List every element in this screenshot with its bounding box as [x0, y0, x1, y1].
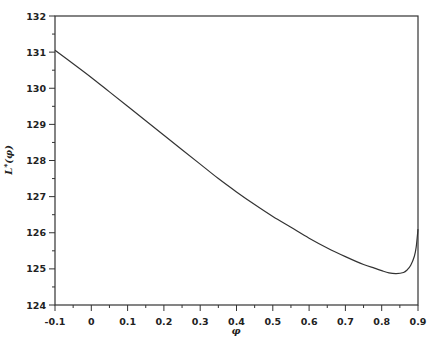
y-tick-label: 127 — [26, 191, 46, 202]
x-tick-label: 0.9 — [410, 316, 427, 327]
x-axis-label: φ — [231, 325, 240, 336]
y-tick-label: 128 — [26, 155, 46, 166]
y-tick-label: 132 — [26, 11, 46, 22]
x-tick-label: 0.7 — [337, 316, 354, 327]
y-axis-label: L*(φ) — [1, 145, 14, 176]
x-tick-label: 0.5 — [264, 316, 281, 327]
y-tick-label: 129 — [26, 119, 46, 130]
x-axis-ticks: -0.100.10.20.30.40.50.60.70.80.9 — [45, 305, 427, 327]
x-tick-label: 0.8 — [373, 316, 390, 327]
data-line — [55, 50, 418, 273]
y-axis-ticks: 124125126127128129130131132 — [26, 11, 55, 311]
svg-text:L*(φ): L*(φ) — [1, 145, 14, 176]
plot-frame — [55, 16, 418, 305]
y-tick-label: 131 — [26, 47, 46, 58]
y-tick-label: 125 — [26, 263, 46, 274]
y-tick-label: 124 — [26, 300, 46, 311]
y-tick-label: 126 — [26, 227, 46, 238]
line-chart: 124125126127128129130131132 -0.100.10.20… — [0, 0, 436, 350]
x-tick-label: 0.2 — [155, 316, 172, 327]
x-tick-label: -0.1 — [45, 316, 66, 327]
x-tick-label: 0.1 — [119, 316, 136, 327]
x-tick-label: 0.3 — [192, 316, 209, 327]
x-tick-label: 0 — [88, 316, 95, 327]
x-tick-label: 0.6 — [301, 316, 318, 327]
y-tick-label: 130 — [26, 83, 46, 94]
